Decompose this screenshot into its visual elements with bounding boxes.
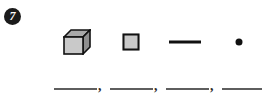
answer-separator: , [98, 77, 102, 95]
line-segment-glyph [169, 41, 201, 44]
answer-blank-rule [54, 88, 97, 90]
square-2d-glyph [123, 34, 140, 51]
answer-blank[interactable]: , [110, 78, 160, 96]
figure-item [110, 26, 152, 58]
point-dot-icon [236, 39, 243, 46]
figure-row [56, 26, 264, 58]
cube-3d-icon [63, 29, 91, 55]
question-number-badge: 7 [4, 8, 21, 25]
square-2d-icon [123, 34, 140, 51]
answer-blanks-row: , , , [54, 78, 260, 96]
answer-blank[interactable]: , [54, 78, 104, 96]
figure-item [56, 26, 98, 58]
line-segment-icon [169, 41, 201, 44]
answer-separator: , [210, 77, 214, 95]
cube-3d-glyph [63, 29, 91, 55]
answer-blank-rule [110, 88, 153, 90]
point-dot-glyph [236, 39, 243, 46]
answer-blank-rule [222, 88, 262, 90]
answer-blank[interactable]: , [166, 78, 216, 96]
figure-item [164, 26, 206, 58]
answer-blank-rule [166, 88, 209, 90]
answer-blank[interactable] [222, 78, 262, 96]
answer-separator: , [154, 77, 158, 95]
figure-item [218, 26, 260, 58]
